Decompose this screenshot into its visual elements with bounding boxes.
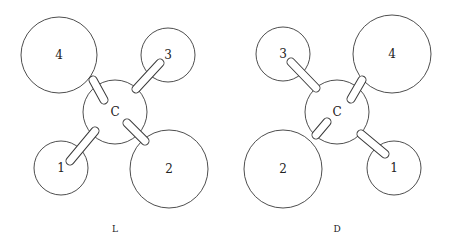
enantiomer-diagram: 4312CL 3421CD [0, 0, 450, 238]
panel-l: 4312CL [21, 17, 208, 234]
panel-caption: L [112, 224, 118, 234]
atom-label: 3 [279, 47, 287, 61]
atom-label: 1 [57, 161, 65, 175]
atom-label: 2 [165, 162, 173, 176]
atom-label: 2 [279, 162, 287, 176]
atom-label: 3 [164, 48, 172, 62]
atom-label: 4 [388, 47, 396, 61]
carbon-label: C [110, 105, 119, 119]
atom-label: 4 [55, 48, 63, 62]
panel-caption: D [333, 224, 340, 234]
carbon-label: C [332, 105, 341, 119]
panel-d: 3421CD [244, 15, 431, 234]
atom-label: 1 [390, 161, 398, 175]
